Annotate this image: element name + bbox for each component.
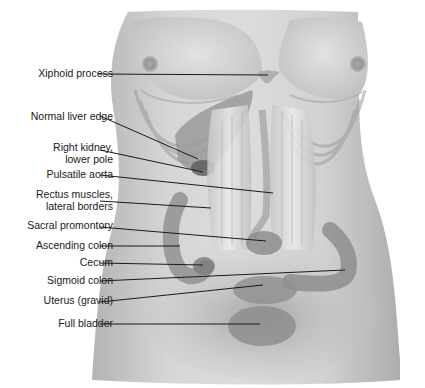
label-text: Normal liver edge: [8, 110, 113, 122]
label-text: Full bladder: [36, 317, 113, 329]
bladder-shape: [228, 306, 296, 346]
label-text: lateral borders: [14, 200, 113, 212]
label-xiphoid: Xiphoid process: [20, 67, 113, 79]
label-text: Pulsatile aorta: [20, 168, 113, 180]
label-aorta: Pulsatile aorta: [20, 168, 113, 180]
label-bladder: Full bladder: [36, 317, 113, 329]
label-uterus: Uterus (gravid): [20, 294, 113, 306]
label-text: Right kidney,: [30, 141, 113, 153]
label-liver: Normal liver edge: [8, 110, 113, 122]
uterus-shape: [233, 276, 297, 304]
label-text: Xiphoid process: [20, 67, 113, 79]
label-text: lower pole: [30, 153, 113, 165]
label-rectus: Rectus muscles,lateral borders: [14, 188, 113, 212]
label-kidney: Right kidney,lower pole: [30, 141, 113, 165]
cecum-shape: [193, 257, 215, 275]
label-text: Ascending colon: [14, 239, 113, 251]
label-sacral: Sacral promontory: [4, 219, 113, 231]
label-text: Sacral promontory: [4, 219, 113, 231]
label-text: Sigmoid colon: [24, 274, 113, 286]
label-cecum: Cecum: [40, 256, 113, 268]
sacrum-shape: [246, 231, 282, 255]
label-text: Rectus muscles,: [14, 188, 113, 200]
label-ascending: Ascending colon: [14, 239, 113, 251]
label-sigmoid: Sigmoid colon: [24, 274, 113, 286]
label-text: Cecum: [40, 256, 113, 268]
label-text: Uterus (gravid): [20, 294, 113, 306]
